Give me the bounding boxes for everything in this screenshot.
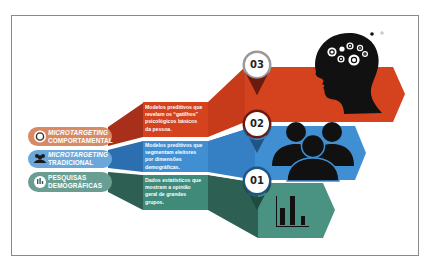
description-line: demográficas. <box>145 164 202 171</box>
category-label-01: PESQUISAS DEMOGRÁFICAS <box>48 174 102 190</box>
category-line1: MICROTARGETING <box>48 129 113 137</box>
category-label-02: MICROTARGETING TRADICIONAL <box>48 151 108 167</box>
description-line: Modelos preditivos que <box>145 142 202 149</box>
description-line: grupos. <box>145 199 201 206</box>
category-line1: PESQUISAS <box>48 174 102 182</box>
description-line: geral de grandes <box>145 191 201 198</box>
description-02: Modelos preditivos que segmentam eleitor… <box>145 142 202 171</box>
description-line: da pessoa. <box>145 126 202 133</box>
description-01: Dados estatísticos que mostram a opinião… <box>145 177 201 206</box>
description-03: Modelos preditivos que revelam os “gatil… <box>145 104 202 133</box>
step-number-03: 03 <box>245 53 269 77</box>
step-number-01: 01 <box>245 169 269 193</box>
category-label-03: MICROTARGETING COMPORTAMENTAL <box>48 129 113 145</box>
description-line: por dimensões <box>145 156 202 163</box>
category-line1: MICROTARGETING <box>48 151 108 159</box>
step-number-02: 02 <box>245 112 269 136</box>
description-line: mostram a opinião <box>145 184 201 191</box>
target-ring-icon <box>34 131 46 143</box>
description-line: Modelos preditivos que <box>145 104 202 111</box>
description-line: revelam os “gatilhos” <box>145 111 202 118</box>
description-line: psicológicos básicos <box>145 118 202 125</box>
category-line2: DEMOGRÁFICAS <box>48 182 102 190</box>
category-line2: COMPORTAMENTAL <box>48 137 113 145</box>
description-line: Dados estatísticos que <box>145 177 201 184</box>
category-line2: TRADICIONAL <box>48 159 108 167</box>
bar-chart-icon <box>34 176 46 188</box>
description-line: segmentam eleitores <box>145 149 202 156</box>
